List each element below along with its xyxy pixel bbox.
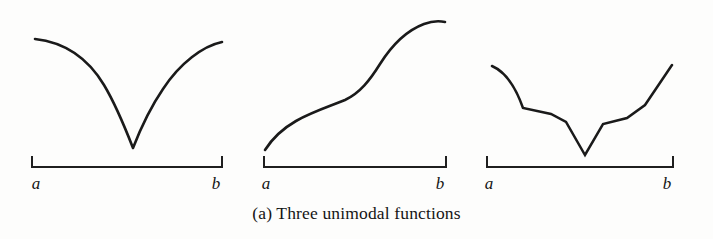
- axis-label-a-panel-2: a: [262, 174, 271, 193]
- axis-label-b-panel-2: b: [436, 174, 445, 193]
- axis-label-a-panel-1: a: [32, 174, 41, 193]
- axis-label-a-panel-3: a: [485, 174, 494, 193]
- curve-piecewise-linear-unimodal: [492, 65, 672, 155]
- figure-three-unimodal-functions: a b a b a b (a) Three unimodal functions: [0, 0, 713, 239]
- panel-3-group: a b: [485, 65, 673, 193]
- axis-interval-panel-3: [487, 156, 673, 167]
- axis-interval-panel-2: [264, 156, 446, 167]
- panel-1-group: a b: [32, 39, 222, 193]
- figure-caption: (a) Three unimodal functions: [0, 203, 713, 224]
- axis-interval-panel-1: [32, 156, 222, 167]
- curve-monotone-increasing-sigmoid: [265, 21, 445, 150]
- axis-label-b-panel-3: b: [663, 174, 672, 193]
- panel-2-group: a b: [262, 21, 446, 193]
- axis-label-b-panel-1: b: [212, 174, 221, 193]
- curve-smooth-v-shaped-unimodal: [35, 39, 222, 148]
